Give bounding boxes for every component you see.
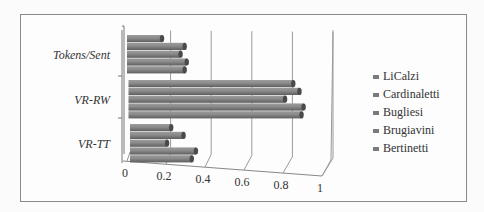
x-tick-label: 0.8 <box>274 178 289 192</box>
legend-swatch-icon <box>373 111 379 115</box>
legend-item: Bertinetti <box>373 141 429 155</box>
bar <box>127 66 187 73</box>
bar <box>130 155 194 162</box>
legend-item: Brugiavini <box>373 123 435 137</box>
bar <box>130 124 173 131</box>
legend-item: LiCalzi <box>373 69 420 83</box>
legend-item: Cardinaletti <box>373 87 440 101</box>
bar <box>127 58 189 65</box>
bar <box>129 96 288 103</box>
bar <box>129 111 304 118</box>
legend: LiCalziCardinalettiBugliesiBrugiaviniBer… <box>373 69 440 155</box>
legend-swatch-icon <box>373 147 379 151</box>
x-tick-label: 1 <box>317 181 323 195</box>
legend-label: Brugiavini <box>383 123 435 137</box>
legend-swatch-icon <box>373 129 379 133</box>
bar <box>129 80 296 87</box>
x-tick-label: 0.6 <box>235 175 250 189</box>
category-labels: Tokens/SentVR-RWVR-TT <box>53 48 111 151</box>
x-tick-label: 0 <box>122 166 128 180</box>
legend-swatch-icon <box>373 75 379 79</box>
bar <box>127 51 183 58</box>
bar <box>129 88 302 95</box>
category-label: VR-TT <box>78 137 111 151</box>
bar <box>130 132 186 139</box>
category-label: Tokens/Sent <box>53 48 111 62</box>
bars <box>127 35 306 162</box>
legend-label: Bugliesi <box>383 105 424 119</box>
bar <box>127 43 187 50</box>
x-axis-ticks: 00.20.40.60.81 <box>122 166 323 195</box>
legend-item: Bugliesi <box>373 105 424 119</box>
bar <box>129 103 306 110</box>
legend-label: LiCalzi <box>383 69 420 83</box>
legend-label: Bertinetti <box>383 141 429 155</box>
legend-swatch-icon <box>373 93 379 97</box>
bar <box>127 35 164 42</box>
category-label: VR-RW <box>74 93 111 107</box>
legend-label: Cardinaletti <box>383 87 440 101</box>
x-tick-label: 0.2 <box>157 169 172 183</box>
bar-chart: Tokens/SentVR-RWVR-TT 00.20.40.60.81 LiC… <box>0 0 484 212</box>
bar <box>130 140 169 147</box>
bar <box>130 147 198 154</box>
x-tick-label: 0.4 <box>196 172 211 186</box>
